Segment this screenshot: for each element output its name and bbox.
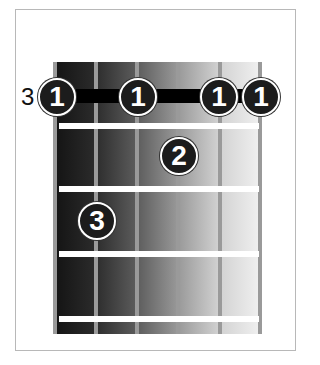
fret-line-2 xyxy=(59,186,259,192)
finger-dot: 1 xyxy=(242,78,280,116)
starting-fret-label: 3 xyxy=(21,83,34,111)
finger-dot: 2 xyxy=(160,137,198,175)
fret-line-4 xyxy=(59,316,259,322)
finger-dot: 1 xyxy=(38,78,76,116)
finger-dot: 1 xyxy=(200,78,238,116)
fret-line-1 xyxy=(59,123,259,129)
finger-dot: 1 xyxy=(119,78,157,116)
finger-dot: 3 xyxy=(78,202,116,240)
fret-line-3 xyxy=(59,251,259,257)
